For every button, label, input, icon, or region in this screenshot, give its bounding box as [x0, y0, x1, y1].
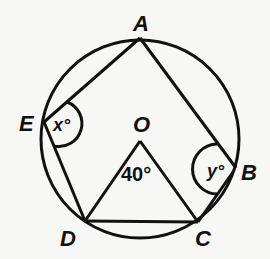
- segment-DC: [85, 221, 198, 222]
- segment-AE: [44, 38, 140, 122]
- label-B: B: [241, 160, 257, 185]
- label-A: A: [132, 11, 149, 36]
- angle-label-x: x°: [52, 115, 71, 135]
- label-C: C: [195, 226, 212, 251]
- geometry-diagram: A B C D E O x° y° 40°: [0, 0, 270, 259]
- segment-AB: [140, 38, 236, 168]
- label-O: O: [133, 112, 150, 137]
- angle-label-central: 40°: [121, 163, 151, 185]
- label-D: D: [60, 226, 76, 251]
- label-E: E: [19, 111, 35, 136]
- angle-label-y: y°: [206, 161, 225, 181]
- diagram-canvas: A B C D E O x° y° 40°: [0, 0, 270, 259]
